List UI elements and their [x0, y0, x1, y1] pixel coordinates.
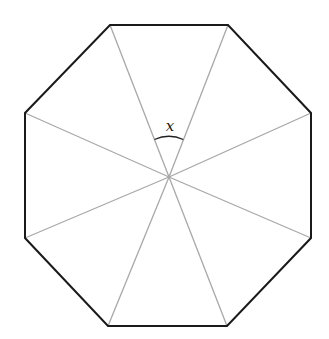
- spokes: [25, 25, 311, 326]
- spoke-5: [169, 177, 227, 326]
- octagon-diagram: x: [0, 0, 329, 339]
- angle-label: x: [166, 117, 175, 135]
- angle-arc: [154, 136, 183, 139]
- spoke-4: [169, 177, 311, 238]
